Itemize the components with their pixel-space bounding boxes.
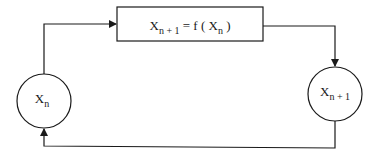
edge-next-to-current [44, 121, 335, 148]
iteration-diagram: Xn + 1 = f ( Xn ) Xn Xn + 1 [0, 0, 382, 161]
edge-map-to-next [263, 26, 335, 66]
edge-current-to-map [44, 24, 116, 74]
